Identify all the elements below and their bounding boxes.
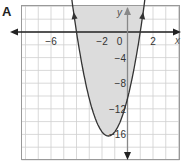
y-axis-down-arrow-icon xyxy=(124,152,131,160)
y-tick-label: −16 xyxy=(109,129,126,140)
y-tick-label: −8 xyxy=(115,78,127,89)
y-tick-label: −12 xyxy=(109,104,126,115)
y-axis-label: y xyxy=(116,7,123,18)
x-tick-label: −2 xyxy=(96,36,108,47)
shaded-region xyxy=(74,6,144,137)
x-axis-left-arrow-icon xyxy=(10,29,18,36)
x-tick-label: 0 xyxy=(117,36,123,47)
y-tick-label: −4 xyxy=(115,53,127,64)
x-tick-label: −6 xyxy=(45,36,57,47)
graph: −6−202−4−8−12−16 x y xyxy=(0,0,183,162)
x-tick-label: 2 xyxy=(150,36,156,47)
x-axis-label: x xyxy=(174,35,181,46)
